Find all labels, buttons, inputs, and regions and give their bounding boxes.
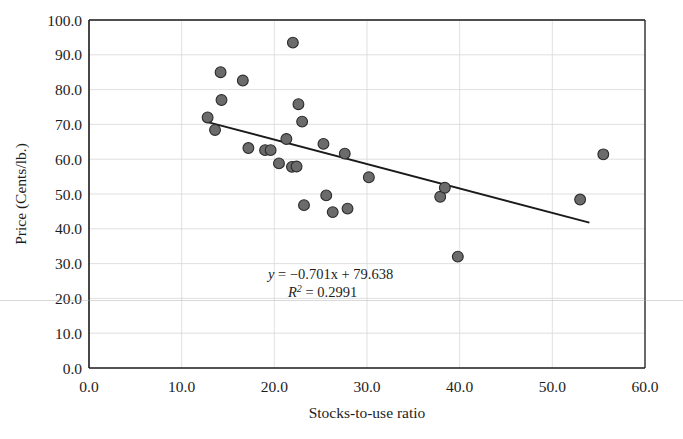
scatter-chart-figure: 0.010.020.030.040.050.060.0 0.010.020.03… xyxy=(0,0,683,439)
data-point xyxy=(363,172,374,183)
x-tick-label: 0.0 xyxy=(79,378,99,395)
equation-body: = −0.701x + 79.638 xyxy=(274,266,393,282)
data-point xyxy=(293,99,304,110)
data-point xyxy=(598,149,609,160)
data-point xyxy=(342,203,353,214)
x-tick-label: 50.0 xyxy=(539,378,566,395)
y-tick-label: 30.0 xyxy=(55,255,82,272)
r-symbol: R xyxy=(287,284,297,300)
data-point xyxy=(215,67,226,78)
y-tick-label: 50.0 xyxy=(55,186,82,203)
data-point xyxy=(339,148,350,159)
x-tick-label: 30.0 xyxy=(353,378,380,395)
data-point xyxy=(321,190,332,201)
y-tick-label: 100.0 xyxy=(47,12,82,29)
regression-equation: y = −0.701x + 79.638 xyxy=(266,266,393,282)
y-tick-label: 0.0 xyxy=(63,360,83,377)
y-tick-label: 20.0 xyxy=(55,290,82,307)
y-axis-title: Price (Cents/lb.) xyxy=(12,143,30,245)
data-point xyxy=(575,194,586,205)
x-axis-title: Stocks-to-use ratio xyxy=(309,404,426,421)
data-point xyxy=(210,125,221,136)
data-point xyxy=(287,37,298,48)
y-tick-label: 40.0 xyxy=(55,220,82,237)
data-point xyxy=(297,116,308,127)
data-point xyxy=(281,134,292,145)
chart-canvas: 0.010.020.030.040.050.060.0 0.010.020.03… xyxy=(0,0,683,439)
data-point xyxy=(299,200,310,211)
data-point xyxy=(291,161,302,172)
data-point xyxy=(265,145,276,156)
data-point xyxy=(216,95,227,106)
y-tick-label: 90.0 xyxy=(55,46,82,63)
y-tick-label: 80.0 xyxy=(55,81,82,98)
data-point xyxy=(274,158,285,169)
data-point xyxy=(327,207,338,218)
y-tick-label: 10.0 xyxy=(55,325,82,342)
data-point xyxy=(237,75,248,86)
x-tick-label: 60.0 xyxy=(631,378,658,395)
y-tick-label: 60.0 xyxy=(55,151,82,168)
y-tick-label: 70.0 xyxy=(55,116,82,133)
data-point xyxy=(439,182,450,193)
r-squared-body: = 0.2991 xyxy=(302,284,357,300)
x-tick-label: 20.0 xyxy=(261,378,288,395)
data-point xyxy=(318,138,329,149)
data-point xyxy=(243,143,254,154)
data-point xyxy=(452,251,463,262)
x-tick-label: 40.0 xyxy=(446,378,473,395)
x-tick-label: 10.0 xyxy=(168,378,195,395)
data-point xyxy=(202,112,213,123)
